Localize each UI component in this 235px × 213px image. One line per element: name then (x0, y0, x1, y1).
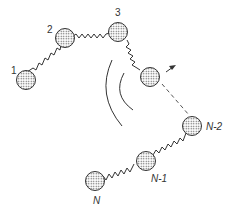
label-bead-2: 2 (47, 25, 53, 35)
label-bead-N-1: N-1 (151, 174, 167, 184)
bead-2 (56, 29, 75, 48)
polymer-chain-diagram (0, 0, 235, 213)
label-bead-N-2: N-2 (206, 122, 222, 132)
bead-1 (17, 71, 36, 90)
spring-2-3 (72, 33, 110, 38)
label-bead-3: 3 (115, 8, 121, 18)
spring-3-4 (126, 40, 140, 70)
arc-inner (120, 73, 133, 110)
spring-Nm1-N (100, 164, 134, 180)
bead-3 (109, 23, 128, 42)
bead-N-2 (183, 117, 202, 136)
label-bead-N: N (93, 196, 100, 206)
spring-Nm2-Nm1 (153, 133, 186, 155)
bead-N-1 (137, 152, 156, 171)
label-bead-1: 1 (11, 66, 17, 76)
spring-1-2 (27, 45, 61, 72)
bead-escaping (141, 68, 160, 87)
arc-outer (106, 60, 122, 126)
bead-N (86, 172, 105, 191)
dashed-link (162, 84, 189, 115)
